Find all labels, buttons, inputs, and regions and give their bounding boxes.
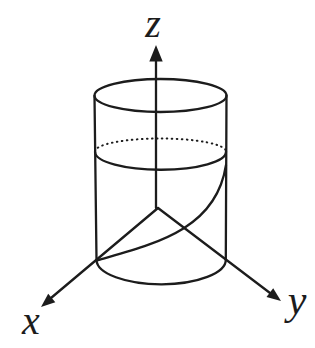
y-axis-line — [158, 208, 270, 293]
mid-circle-front-arc — [95, 152, 226, 170]
cylinder-axes-figure: z x y — [0, 0, 315, 348]
figure-fills: z x y — [21, 1, 307, 343]
figure-page: z x y — [0, 0, 315, 348]
z-axis-label: z — [144, 1, 161, 46]
figure-strokes — [51, 59, 270, 298]
y-axis-label: y — [284, 277, 307, 323]
mid-circle-back-dotted-arc — [95, 139, 226, 152]
x-axis-line — [51, 208, 158, 298]
cylinder-bottom-front-arc — [97, 260, 226, 285]
x-axis-label: x — [21, 298, 40, 343]
y-axis-arrowhead-icon — [267, 288, 282, 301]
cylinder-right-edge — [226, 96, 227, 260]
z-axis-arrowhead-icon — [149, 45, 162, 62]
cylinder-left-edge — [95, 96, 97, 260]
cylinder-top-ellipse — [95, 79, 227, 112]
